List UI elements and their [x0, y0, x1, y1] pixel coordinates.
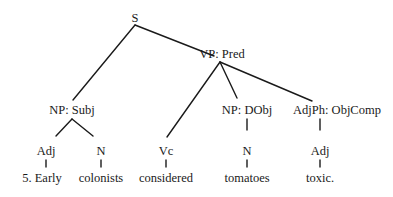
- node-adj-early: Adj: [37, 145, 56, 158]
- syntax-tree-diagram: S VP: Pred NP: Subj NP: DObj AdjPh: ObjC…: [0, 0, 393, 197]
- node-vp-pred: VP: Pred: [199, 48, 245, 61]
- word-toxic: toxic.: [306, 172, 334, 185]
- node-vc: Vc: [159, 145, 174, 158]
- word-colonists: colonists: [79, 172, 123, 185]
- edge-np-subj-n: [72, 119, 93, 136]
- edge-vp-adjph: [220, 62, 312, 101]
- edge-np-subj-adj: [56, 119, 72, 136]
- node-n-tomatoes: N: [242, 145, 251, 158]
- node-s: S: [132, 12, 139, 25]
- node-adj-toxic: Adj: [311, 145, 330, 158]
- node-n-colonists: N: [96, 145, 105, 158]
- tree-edges: [0, 0, 393, 197]
- edge-s-np-subj: [73, 25, 135, 100]
- node-np-subj: NP: Subj: [49, 104, 95, 117]
- node-adjph-objcomp: AdjPh: ObjComp: [293, 104, 381, 117]
- word-tomatoes: tomatoes: [224, 172, 269, 185]
- word-considered: considered: [139, 172, 193, 185]
- node-np-dobj: NP: DObj: [222, 104, 272, 117]
- edge-vp-vc: [167, 62, 220, 137]
- word-early: 5. Early: [22, 172, 62, 185]
